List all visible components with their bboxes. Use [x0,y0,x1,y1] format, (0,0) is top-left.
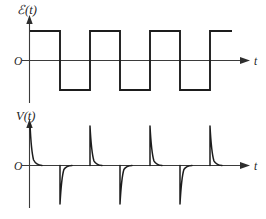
voltage-spike-positive-4 [210,126,222,166]
voltage-spike-positive-2 [90,126,102,166]
emf-y-axis-label: ℰ(t) [17,3,37,17]
voltage-spike-negative-2 [120,166,132,205]
voltage-spike-negative-3 [180,166,192,205]
voltage-x-axis-arrowhead [240,162,250,169]
voltage-y-axis-label: V(t) [16,109,35,123]
voltage-spike-negative-1 [60,166,72,205]
voltage-origin-label: O [14,160,23,172]
voltage-spike-positive-3 [150,126,162,166]
emf-x-axis-label: t [254,55,258,67]
voltage-panel: V(t) t O [0,108,266,219]
emf-x-axis-arrowhead [240,57,250,64]
emf-plot: ℰ(t) t O [0,0,266,108]
voltage-plot: V(t) t O [0,108,266,219]
voltage-spike-positive-1 [30,124,42,166]
voltage-x-axis-label: t [254,160,258,172]
figure-container: ℰ(t) t O V(t) [0,0,266,219]
emf-origin-label: O [14,55,23,67]
emf-panel: ℰ(t) t O [0,0,266,108]
